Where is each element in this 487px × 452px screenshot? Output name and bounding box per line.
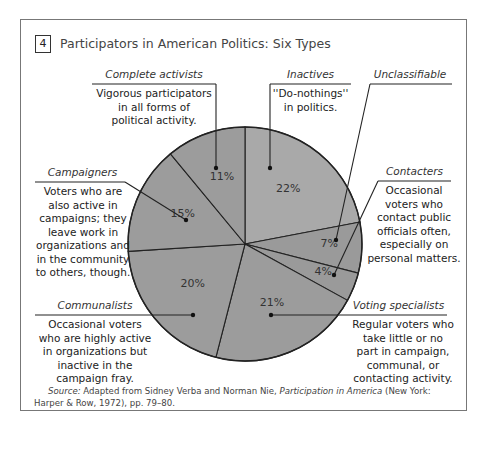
- desc-campaigners: Voters who are also active in campaigns;…: [33, 185, 133, 280]
- slice-percent-label: 22%: [276, 182, 300, 195]
- desc-complete-activists: Vigorous participators in all forms of p…: [92, 87, 216, 128]
- label-complete-activists: Complete activists: [92, 68, 216, 80]
- label-unclassifiable: Unclassifiable: [368, 68, 452, 80]
- label-inactives: Inactives: [270, 68, 351, 80]
- slice-percent-label: 21%: [260, 296, 284, 309]
- label-communalists: Communalists: [35, 299, 155, 311]
- source-note: Source: Adapted from Sidney Verba and No…: [34, 385, 454, 409]
- desc-inactives: ''Do-nothings'' in politics.: [270, 87, 351, 114]
- desc-communalists: Occasional voters who are highly active …: [30, 318, 160, 386]
- desc-voting-specialists: Regular voters who take little or no par…: [348, 318, 458, 386]
- slice-percent-label: 20%: [180, 277, 204, 290]
- desc-contacters: Occasional voters who contact public off…: [362, 184, 466, 265]
- slice-percent-label: 11%: [210, 170, 234, 183]
- label-contacters: Contacters: [378, 165, 451, 177]
- slice-percent-label: 4%: [315, 265, 332, 278]
- label-campaigners: Campaigners: [35, 166, 130, 178]
- label-voting-specialists: Voting specialists: [350, 299, 447, 311]
